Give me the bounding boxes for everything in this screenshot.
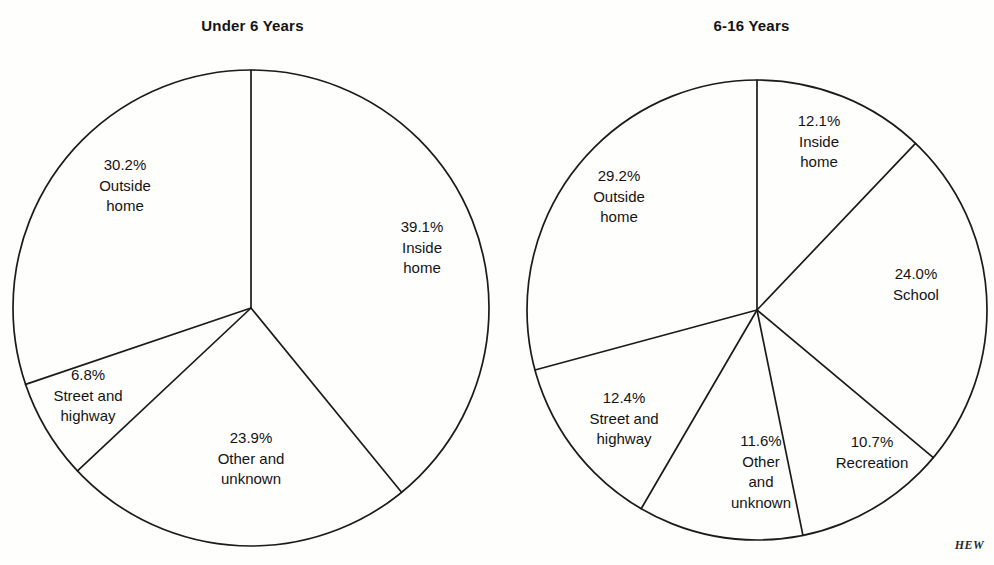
pie-slice-name: highway (589, 429, 658, 450)
pie-slice-label: 24.0%School (893, 264, 939, 305)
pie-slice-name: and (731, 472, 791, 493)
pie-slice-label: 29.2%Outsidehome (593, 166, 645, 228)
pie-slice-label: 23.9%Other andunknown (218, 428, 285, 490)
pie-slice-name: Other and (218, 449, 285, 470)
pie-slice-percent: 12.1% (798, 111, 841, 132)
pie-slice-name: unknown (731, 493, 791, 514)
pie-slice-label: 39.1%Insidehome (401, 217, 444, 279)
pie-slice-name: home (593, 207, 645, 228)
pie-slice-name: Outside (99, 176, 151, 197)
pie-slice-percent: 39.1% (401, 217, 444, 238)
pie-slice-name: Inside (798, 132, 841, 153)
pie-slice-percent: 29.2% (593, 166, 645, 187)
pie-slice-percent: 12.4% (589, 388, 658, 409)
pie-slice-name: highway (53, 406, 122, 427)
pie-slice-divider (535, 310, 757, 370)
pie-slice-percent: 11.6% (731, 431, 791, 452)
pie-slice-percent: 30.2% (99, 155, 151, 176)
pie-chart-figure: Under 6 Years 39.1%Insidehome23.9%Other … (0, 0, 994, 565)
pie-slice-label: 10.7%Recreation (836, 432, 909, 473)
pie-slice-percent: 24.0% (893, 264, 939, 285)
pie-slice-label: 12.4%Street andhighway (589, 388, 658, 450)
pie-slice-name: Inside (401, 238, 444, 259)
pie-slice-name: Outside (593, 187, 645, 208)
pie-slice-percent: 10.7% (836, 432, 909, 453)
pie-slice-name: School (893, 284, 939, 305)
pie-slice-percent: 23.9% (218, 428, 285, 449)
source-credit: HEW (955, 538, 984, 553)
pie-chart-under-6-years: Under 6 Years 39.1%Insidehome23.9%Other … (0, 0, 497, 565)
pie-slice-name: Other (731, 452, 791, 473)
pie-slice-label: 11.6%Otherandunknown (731, 431, 791, 513)
pie-chart-6-16-years: 6-16 Years 12.1%Insidehome24.0%School10.… (497, 0, 994, 565)
pie-slice-name: unknown (218, 469, 285, 490)
pie-slice-label: 12.1%Insidehome (798, 111, 841, 173)
pie-slice-name: home (401, 258, 444, 279)
pie-slice-name: Street and (53, 386, 122, 407)
pie-slice-name: home (99, 196, 151, 217)
pie-slice-name: Recreation (836, 452, 909, 473)
pie-slice-label: 6.8%Street andhighway (53, 365, 122, 427)
pie-slice-name: Street and (589, 409, 658, 430)
pie-slice-label: 30.2%Outsidehome (99, 155, 151, 217)
pie-slice-percent: 6.8% (53, 365, 122, 386)
pie-slice-name: home (798, 152, 841, 173)
